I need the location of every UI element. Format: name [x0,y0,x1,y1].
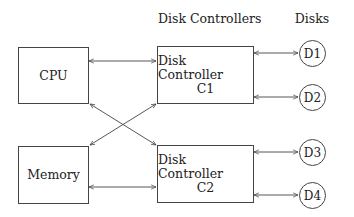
disk-controller-c2: Disk Controller C2 [157,145,254,203]
disk-d4-label: D4 [304,189,321,203]
disk-d4: D4 [299,182,326,209]
cpu-node: CPU [18,47,89,104]
disk-controller-c1: Disk Controller C1 [157,46,254,104]
c2-label-line2: C2 [197,181,215,195]
disk-d3-label: D3 [304,146,321,160]
cpu-label: CPU [39,69,67,83]
disk-d2-label: D2 [304,91,321,105]
c1-label-line1: Disk Controller [158,54,253,82]
disk-d1-label: D1 [304,47,321,61]
c1-label-line2: C1 [197,82,215,96]
memory-node: Memory [18,146,89,204]
header-disks: Disks [292,12,332,26]
disk-d3: D3 [299,139,326,166]
disk-d1: D1 [299,40,326,67]
diagram-canvas: Disk Controllers Disks CPU Memory Disk C… [0,0,354,217]
memory-label: Memory [27,168,80,182]
c2-label-line1: Disk Controller [158,153,253,181]
disk-d2: D2 [299,84,326,111]
header-disk-controllers: Disk Controllers [158,12,254,26]
